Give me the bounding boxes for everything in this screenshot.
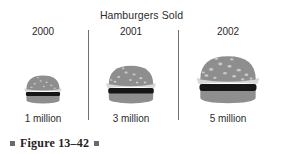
- pictograph-column-2000: 2000 1 million: [6, 26, 80, 124]
- figure-container: Hamburgers Sold 2000: [0, 0, 283, 154]
- column-value-label: 5 million: [182, 113, 274, 124]
- hamburger-icon-medium: [92, 56, 170, 104]
- pictograph-column-2001: 2001: [92, 26, 170, 124]
- column-year-label: 2002: [182, 26, 274, 37]
- column-year-label: 2001: [92, 26, 170, 37]
- figure-caption: Figure 13–42: [10, 136, 99, 151]
- column-divider-1: [88, 30, 89, 120]
- chart-title: Hamburgers Sold: [0, 9, 283, 21]
- figure-caption-text: Figure 13–42: [20, 136, 89, 151]
- hamburger-icon-small: [6, 68, 80, 104]
- hamburger-icon: [189, 44, 267, 104]
- column-divider-2: [178, 30, 179, 120]
- hamburger-icon-large: [182, 44, 274, 104]
- column-value-label: 1 million: [6, 113, 80, 124]
- square-bullet-icon: [94, 141, 99, 146]
- column-value-label: 3 million: [92, 113, 170, 124]
- square-bullet-icon: [10, 141, 15, 146]
- hamburger-icon: [20, 68, 66, 104]
- pictograph-column-2002: 2002: [182, 26, 274, 124]
- hamburger-icon: [100, 56, 162, 104]
- column-year-label: 2000: [6, 26, 80, 37]
